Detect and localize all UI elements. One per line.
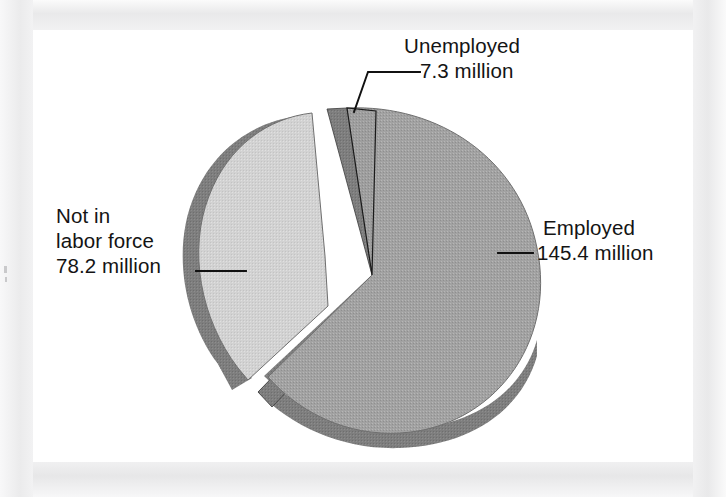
label-employed-value: 145.4 million [537,241,653,264]
label-not-in-labor-force-value: 78.2 million [56,253,161,278]
label-not-in-labor-force-line1: Not in [56,203,161,228]
label-unemployed-value: 7.3 million [404,58,520,83]
label-not-in-labor-force-line2: labor force [56,228,161,253]
label-employed-name: Employed [537,215,653,240]
label-not-in-labor-force: Not in labor force 78.2 million [56,203,161,278]
label-employed: Employed 145.4 million [537,215,653,265]
label-unemployed: Unemployed 7.3 million [404,33,520,83]
label-unemployed-name: Unemployed [404,34,520,57]
scanned-page: Unemployed 7.3 million Employed 145.4 mi… [0,0,726,497]
